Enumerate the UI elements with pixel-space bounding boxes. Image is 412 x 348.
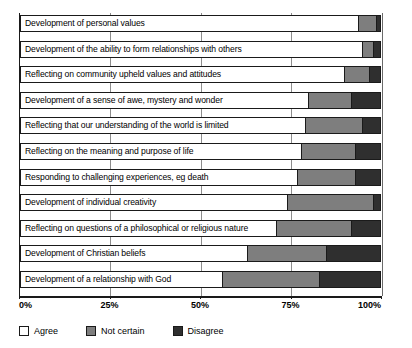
bar-segment-agree (21, 67, 344, 82)
legend-swatch-icon (173, 326, 183, 336)
x-tick-mark (110, 296, 111, 299)
bar-row: Development of Christian beliefs (20, 245, 381, 262)
bar-row: Reflecting that our understanding of the… (20, 117, 381, 134)
stacked-bar (20, 220, 381, 237)
bar-segment-agree (21, 246, 247, 261)
legend-swatch-icon (19, 326, 29, 336)
bar-segment-notcertain (308, 93, 351, 108)
stacked-bar (20, 271, 381, 288)
bar-segment-agree (21, 16, 358, 31)
bar-row: Reflecting on community upheld values an… (20, 66, 381, 83)
bar-segment-notcertain (358, 16, 376, 31)
bar-row: Reflecting on questions of a philosophic… (20, 220, 381, 237)
bar-segment-notcertain (301, 144, 355, 159)
legend-item-agree[interactable]: Agree (19, 326, 58, 336)
legend-label: Not certain (101, 326, 145, 336)
bar-segment-agree (21, 144, 301, 159)
bar-segment-notcertain (287, 195, 373, 210)
x-tick-mark (381, 296, 382, 299)
bar-segment-disagree (355, 144, 380, 159)
bar-segment-disagree (351, 93, 380, 108)
bar-segment-notcertain (344, 67, 369, 82)
stacked-bar-chart: Development of personal valuesDevelopmen… (0, 0, 412, 348)
bar-segment-disagree (369, 67, 380, 82)
x-tick-label: 75% (281, 300, 299, 310)
bar-row: Development of personal values (20, 15, 381, 32)
stacked-bar (20, 143, 381, 160)
x-tick-mark (291, 296, 292, 299)
bar-segment-notcertain (222, 272, 319, 287)
bar-row: Development of a sense of awe, mystery a… (20, 92, 381, 109)
bar-segment-agree (21, 170, 297, 185)
legend-label: Agree (34, 326, 58, 336)
bar-segment-notcertain (297, 170, 354, 185)
stacked-bar (20, 15, 381, 32)
bar-segment-notcertain (362, 42, 373, 57)
bar-row: Development of individual creativity (20, 194, 381, 211)
bar-row: Development of the ability to form relat… (20, 41, 381, 58)
bar-segment-agree (21, 93, 308, 108)
bar-segment-notcertain (276, 221, 351, 236)
bar-segment-disagree (319, 272, 380, 287)
gridline-100pct (382, 13, 383, 296)
stacked-bar (20, 169, 381, 186)
bar-segment-disagree (373, 42, 380, 57)
legend-item-disagree[interactable]: Disagree (173, 326, 224, 336)
stacked-bar (20, 117, 381, 134)
stacked-bar (20, 194, 381, 211)
bar-segment-notcertain (247, 246, 326, 261)
x-tick-mark (19, 296, 20, 299)
bar-segment-disagree (362, 118, 380, 133)
bar-row: Development of a relationship with God (20, 271, 381, 288)
legend-label: Disagree (188, 326, 224, 336)
bar-segment-disagree (373, 195, 380, 210)
x-tick-label: 25% (100, 300, 118, 310)
bar-row: Responding to challenging experiences, e… (20, 169, 381, 186)
x-tick-label: 50% (191, 300, 209, 310)
bar-segment-agree (21, 195, 287, 210)
bar-segment-disagree (351, 221, 380, 236)
bar-segment-notcertain (305, 118, 362, 133)
bar-segment-disagree (355, 170, 380, 185)
plot-area: Development of personal valuesDevelopmen… (19, 13, 381, 296)
legend-swatch-icon (86, 326, 96, 336)
bar-row: Reflecting on the meaning and purpose of… (20, 143, 381, 160)
chart-legend: AgreeNot certainDisagree (19, 323, 252, 339)
bar-segment-agree (21, 221, 276, 236)
stacked-bar (20, 245, 381, 262)
x-tick-mark (200, 296, 201, 299)
stacked-bar (20, 92, 381, 109)
bar-segment-disagree (326, 246, 380, 261)
x-tick-label: 0% (19, 300, 32, 310)
stacked-bar (20, 41, 381, 58)
legend-item-not-certain[interactable]: Not certain (86, 326, 145, 336)
bar-segment-agree (21, 118, 305, 133)
x-tick-label: 100% (358, 300, 381, 310)
stacked-bar (20, 66, 381, 83)
bar-segment-agree (21, 42, 362, 57)
bar-segment-disagree (376, 16, 380, 31)
bar-segment-agree (21, 272, 222, 287)
